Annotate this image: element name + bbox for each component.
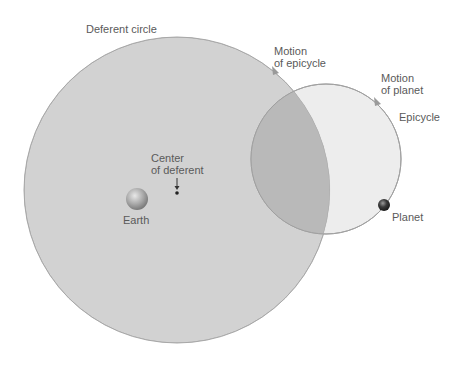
epicycle-motion-arrow-icon bbox=[374, 97, 381, 106]
label-line: of planet bbox=[381, 84, 423, 96]
center-of-deferent-dot bbox=[175, 191, 179, 195]
label-line: of epicycle bbox=[274, 57, 326, 69]
label-motion-of-planet: Motion of planet bbox=[381, 72, 423, 96]
epicycle-diagram bbox=[0, 0, 464, 365]
planet-icon bbox=[378, 199, 390, 211]
label-motion-of-epicycle: Motion of epicycle bbox=[274, 45, 326, 69]
label-epicycle: Epicycle bbox=[399, 111, 440, 123]
earth-icon bbox=[126, 188, 148, 210]
label-center-of-deferent: Center of deferent bbox=[151, 152, 204, 176]
label-line: Motion bbox=[274, 45, 326, 57]
label-earth: Earth bbox=[123, 214, 149, 226]
label-line: of deferent bbox=[151, 164, 204, 176]
label-deferent-circle: Deferent circle bbox=[86, 23, 157, 35]
label-line: Center bbox=[151, 152, 204, 164]
label-planet: Planet bbox=[392, 211, 423, 223]
label-line: Motion bbox=[381, 72, 423, 84]
